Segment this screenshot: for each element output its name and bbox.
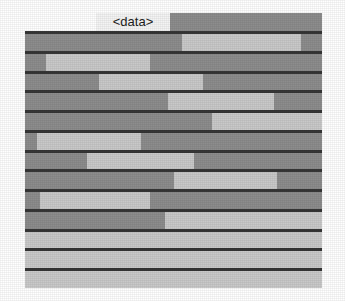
chart-bar-segment — [25, 192, 40, 209]
chart-bar-segment — [165, 212, 322, 229]
chart-bar-segment — [25, 93, 168, 110]
chart-bar-segment — [99, 74, 203, 91]
chart-bar-segment — [150, 54, 322, 71]
chart-bar-segment — [174, 172, 278, 189]
header-shoulder-block — [166, 13, 322, 31]
chart-bar-segment — [301, 34, 322, 51]
chart-bar-segment — [25, 54, 46, 71]
chart-bar-row — [25, 169, 322, 189]
chart-bar-row — [25, 150, 322, 170]
chart-bar-segment — [212, 113, 322, 130]
chart-bar-row — [25, 268, 322, 288]
chart-bar-segment — [141, 133, 322, 150]
chart-bar-segment — [25, 232, 322, 249]
chart-bar-segment — [25, 251, 322, 268]
chart-bar-segment — [150, 192, 322, 209]
chart-bar-row — [25, 229, 322, 249]
chart-bar-segment — [25, 153, 87, 170]
chart-bar-row — [25, 71, 322, 91]
chart-bar-segment — [87, 153, 194, 170]
chart-bar-row — [25, 130, 322, 150]
chart-bar-segment — [194, 153, 322, 170]
chart-bar-segment — [25, 113, 212, 130]
chart-bar-segment — [46, 54, 150, 71]
chart-bar-segment — [25, 74, 99, 91]
figure-root: <data> — [0, 0, 345, 301]
chart-bar-segment — [203, 74, 322, 91]
chart-bar-row — [25, 209, 322, 229]
chart-bar-segment — [274, 93, 322, 110]
chart-bar-row — [25, 31, 322, 51]
chart-bar-row — [25, 189, 322, 209]
chart-bar-segment — [40, 192, 150, 209]
figure-header: <data> — [0, 0, 345, 31]
chart-bar-row — [25, 248, 322, 268]
chart-plot-area — [25, 31, 322, 288]
chart-bar-segment — [182, 34, 301, 51]
chart-bar-segment — [25, 271, 322, 288]
chart-bar-segment — [37, 133, 141, 150]
chart-bar-segment — [25, 212, 165, 229]
chart-bar-segment — [168, 93, 275, 110]
chart-label: <data> — [96, 13, 170, 31]
chart-bar-row — [25, 51, 322, 71]
chart-bar-segment — [25, 133, 37, 150]
chart-bar-segment — [25, 34, 182, 51]
chart-bar-segment — [25, 172, 174, 189]
chart-bar-row — [25, 90, 322, 110]
chart-bar-segment — [277, 172, 322, 189]
chart-bar-row — [25, 110, 322, 130]
